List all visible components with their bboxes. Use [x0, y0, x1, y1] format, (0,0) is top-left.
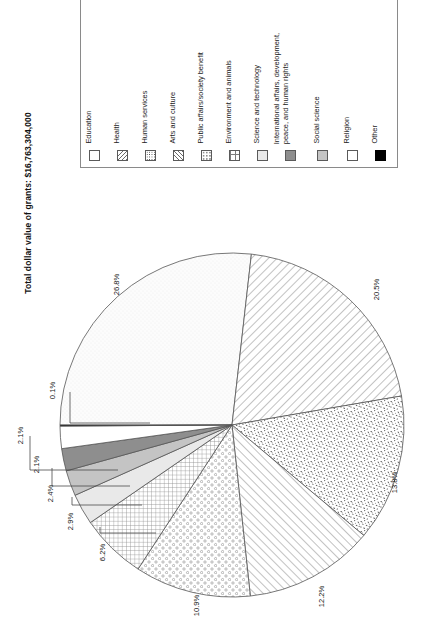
pie-label-health: 20.5% — [372, 279, 381, 301]
dark-gray-swatch-icon — [285, 150, 296, 161]
legend: Education Health Human services Arts and… — [80, 0, 398, 168]
pie-label-other: 0.1% — [48, 382, 57, 399]
legend-label-human-services: Human services — [141, 91, 150, 144]
black-swatch-icon — [375, 150, 386, 161]
pie-label-human-services: 13.8% — [390, 472, 399, 494]
legend-label-international-affairs: International affairs, development, peac… — [272, 33, 289, 144]
legend-label-health: Health — [113, 123, 122, 144]
pie-label-public-affairs: 10.9% — [192, 595, 201, 617]
pie-label-education: 26.8% — [112, 274, 121, 296]
diagonal-hatch-forward-swatch-icon — [173, 150, 184, 161]
legend-label-science-and-technology: Science and technology — [253, 66, 262, 144]
mid-gray-swatch-icon — [317, 150, 328, 161]
legend-label-arts-and-culture: Arts and culture — [169, 92, 178, 144]
pie-label-science-technology: 2.9% — [66, 513, 75, 530]
legend-label-other: Other — [371, 126, 380, 144]
legend-label-social-science: Social science — [313, 97, 322, 144]
pie-label-environment: 6.2% — [98, 544, 107, 561]
legend-label-religion: Religion — [343, 117, 352, 144]
pie-label-international-affairs: 2.4% — [46, 485, 55, 502]
pie-slice-group — [60, 253, 404, 597]
pie-label-arts-culture: 12.2% — [317, 586, 326, 608]
light-gray-swatch-icon — [257, 150, 268, 161]
open-circles-swatch-icon — [201, 150, 212, 161]
blank-swatch-icon — [89, 150, 100, 161]
pie-label-religion: 2.1% — [16, 427, 25, 444]
legend-label-environment-and-animals: Environment and animals — [225, 61, 234, 144]
legend-label-public-affairs: Public affairs/society benefit — [197, 53, 206, 144]
diagonal-hatch-back-swatch-icon — [117, 150, 128, 161]
dense-speckle-swatch-icon — [145, 150, 156, 161]
legend-label-education: Education — [85, 111, 94, 144]
white-swatch-icon — [347, 150, 358, 161]
pie-slice — [60, 253, 251, 425]
chart-page: Total dollar value of grants: $16,763,30… — [0, 0, 426, 632]
pie-label-social-science: 2.1% — [32, 456, 41, 473]
cross-grid-swatch-icon — [229, 150, 240, 161]
